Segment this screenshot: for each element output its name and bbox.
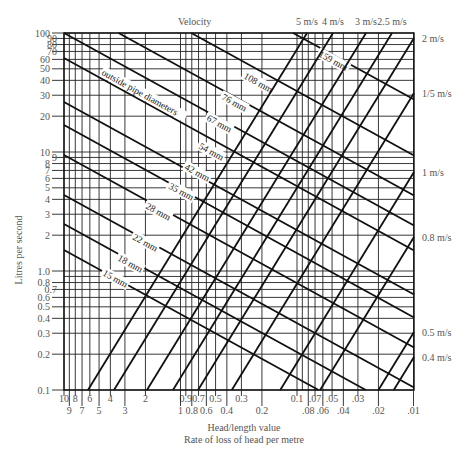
pipe-line bbox=[64, 195, 414, 388]
velocity-label: 0.5 m/s bbox=[422, 327, 452, 338]
pipe-diameter-label: 18 mm bbox=[116, 253, 145, 275]
x-tick-label: 8 bbox=[73, 393, 78, 404]
velocity-label: 5 m/s bbox=[296, 16, 318, 27]
pipe-diameter-label: 108 mm bbox=[242, 71, 275, 95]
y-tick-label: 40 bbox=[40, 75, 50, 86]
pipe-line bbox=[119, 33, 414, 196]
y-tick-label: 20 bbox=[40, 111, 50, 122]
x-tick-label: 0.3 bbox=[235, 393, 248, 404]
velocity-label: 4 m/s bbox=[322, 16, 344, 27]
velocity-label: 0.4 m/s bbox=[422, 352, 452, 363]
pipe-diameter-label: 42 mm bbox=[183, 162, 212, 184]
x-tick-label: 1 bbox=[178, 405, 183, 416]
x-tick-label: 6 bbox=[87, 393, 92, 404]
x-tick-label: .08 bbox=[302, 405, 315, 416]
x-tick-label: 0.6 bbox=[200, 405, 213, 416]
x-tick-label: 10 bbox=[59, 393, 69, 404]
pipe-diameter-label: 28 mm bbox=[144, 201, 173, 223]
y-tick-label: 50 bbox=[40, 63, 50, 74]
x-tick-label: .05 bbox=[326, 393, 339, 404]
pipe-line bbox=[64, 102, 414, 295]
x-tick-label: 0.4 bbox=[221, 405, 234, 416]
x-axis-label: Head/length value bbox=[207, 422, 281, 433]
y-tick-label: 1.0 bbox=[38, 266, 51, 277]
velocity-label: 1 m/s bbox=[422, 167, 444, 178]
x-tick-label: 0.5 bbox=[209, 393, 222, 404]
x-tick-label: 0.2 bbox=[256, 405, 269, 416]
x-tick-label: .01 bbox=[407, 405, 420, 416]
pipe-flow-chart: 15 mm18 mm22 mm28 mm35 mm42 mm54 mm67 mm… bbox=[0, 0, 468, 460]
y-tick-label: 10 bbox=[40, 147, 50, 158]
x-tick-label: .06 bbox=[317, 405, 330, 416]
x-tick-label: .03 bbox=[352, 393, 365, 404]
y-axis-label: Litres per second bbox=[13, 216, 24, 285]
pipe-line bbox=[64, 33, 414, 226]
x-tick-label: 0.7 bbox=[192, 393, 205, 404]
y-tick-label: 0.4 bbox=[38, 313, 51, 324]
chart-title: Velocity bbox=[178, 16, 211, 27]
y-tick-label: 0.1 bbox=[38, 385, 51, 396]
velocity-label: 0.8 m/s bbox=[422, 232, 452, 243]
x-axis-label-2: Rate of loss of head per metre bbox=[184, 434, 305, 445]
y-tick-label: 0.5 bbox=[38, 301, 51, 312]
x-tick-label: 7 bbox=[80, 405, 85, 416]
x-tick-label: 5 bbox=[97, 405, 102, 416]
y-tick-label: 2 bbox=[45, 230, 50, 241]
x-tick-label: 9 bbox=[67, 405, 72, 416]
y-tick-label: 9 bbox=[52, 152, 57, 163]
x-tick-label: .02 bbox=[372, 405, 385, 416]
y-tick-label: 5 bbox=[45, 182, 50, 193]
velocity-line bbox=[114, 33, 333, 390]
x-tick-label: 0.1 bbox=[291, 393, 304, 404]
y-tick-label: 0.3 bbox=[38, 328, 51, 339]
y-tick-label: 30 bbox=[40, 90, 50, 101]
x-tick-label: 3 bbox=[122, 405, 127, 416]
y-tick-label: 3 bbox=[45, 209, 50, 220]
x-tick-label: 2 bbox=[143, 393, 148, 404]
x-tick-label: .04 bbox=[337, 405, 350, 416]
velocity-line bbox=[320, 237, 414, 390]
x-tick-label: 0.9 bbox=[180, 393, 193, 404]
velocity-label: 2.5 m/s bbox=[377, 16, 407, 27]
y-tick-label: 0.2 bbox=[38, 349, 51, 360]
velocity-label: 2 m/s bbox=[422, 33, 444, 44]
x-tick-label: .07 bbox=[309, 393, 322, 404]
velocity-line bbox=[378, 332, 414, 390]
velocity-label: 1/5 m/s bbox=[422, 88, 452, 99]
y-tick-label: 4 bbox=[45, 194, 50, 205]
velocity-line bbox=[280, 172, 414, 390]
velocity-label: 3 m/s bbox=[355, 16, 377, 27]
velocity-line bbox=[173, 33, 392, 390]
pipe-lines: 15 mm18 mm22 mm28 mm35 mm42 mm54 mm67 mm… bbox=[64, 33, 414, 390]
x-tick-label: 4 bbox=[108, 393, 113, 404]
x-tick-label: 0.8 bbox=[186, 405, 199, 416]
